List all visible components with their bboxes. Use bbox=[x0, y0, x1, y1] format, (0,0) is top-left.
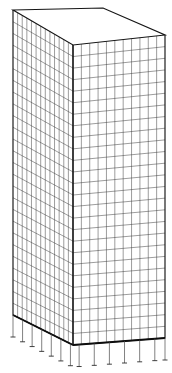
support-symbol bbox=[137, 340, 142, 362]
support-symbol bbox=[107, 342, 112, 364]
support-symbol bbox=[49, 334, 54, 356]
front-face-fill bbox=[73, 35, 165, 345]
support-symbol bbox=[30, 325, 35, 347]
building-mesh-diagram bbox=[0, 0, 172, 373]
support-symbol bbox=[58, 339, 63, 361]
support-symbol bbox=[39, 329, 44, 351]
support-symbol bbox=[92, 343, 97, 365]
support-symbol bbox=[122, 341, 127, 363]
support-symbol bbox=[68, 344, 73, 366]
support-symbol bbox=[152, 339, 157, 361]
support-symbol bbox=[20, 320, 25, 342]
figure-canvas bbox=[0, 0, 172, 373]
support-symbol bbox=[163, 338, 168, 360]
support-symbol bbox=[77, 345, 82, 367]
support-symbol bbox=[11, 315, 16, 337]
